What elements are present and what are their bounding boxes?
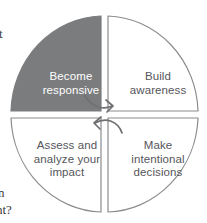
clipped-text-fragment-bottom-first: n	[0, 186, 5, 199]
quadrant-label-become-responsive: Become responsive	[32, 70, 110, 97]
diagram-page: t n ht? Become responsive Build	[0, 0, 207, 223]
quadrant-label-assess-and-analyze: Assess and analyze your impact	[24, 139, 110, 180]
cycle-wheel-diagram: Become responsive Build awareness Assess…	[8, 13, 200, 215]
quadrant-label-make-intentional-decisions: Make intentional decisions	[118, 139, 198, 180]
wheel-svg	[8, 13, 200, 215]
quadrant-label-build-awareness: Build awareness	[120, 70, 196, 97]
clipped-text-fragment-top: t	[0, 27, 3, 40]
